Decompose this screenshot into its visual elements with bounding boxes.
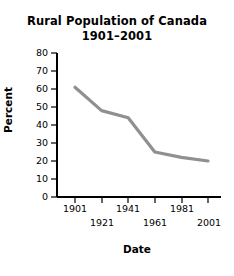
plot-area	[0, 0, 234, 276]
chart-container: Rural Population of Canada 1901–2001 Per…	[0, 0, 234, 276]
data-line-series-1	[75, 87, 208, 161]
